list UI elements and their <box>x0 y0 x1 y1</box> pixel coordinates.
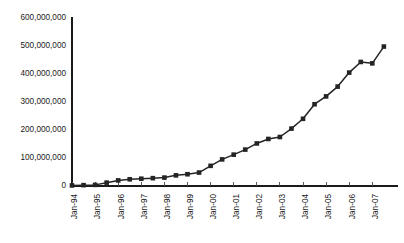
data-point-marker <box>208 164 213 169</box>
data-point-marker <box>174 173 179 178</box>
x-axis-tick-label: Jan-01 <box>232 194 241 219</box>
data-point-marker <box>197 170 202 175</box>
y-axis-tick-label: 200,000,000 <box>20 125 66 134</box>
y-axis-tick-label: 100,000,000 <box>20 153 66 162</box>
data-point-marker <box>347 70 352 75</box>
data-point-marker <box>162 175 167 180</box>
data-point-marker <box>104 180 109 185</box>
y-axis-tick-label: 500,000,000 <box>20 41 66 50</box>
data-point-marker <box>324 94 329 99</box>
data-point-marker <box>358 60 363 65</box>
data-point-marker <box>220 157 225 162</box>
x-axis-tick-label: Jan-99 <box>186 194 195 219</box>
y-axis-tick-label: 600,000,000 <box>20 13 66 22</box>
data-point-marker <box>231 152 236 157</box>
x-axis-tick-label: Jan-04 <box>301 194 310 219</box>
x-axis-tick-label: Jan-03 <box>278 194 287 219</box>
x-axis-tick-label: Jan-06 <box>348 194 357 219</box>
data-point-marker <box>127 177 132 182</box>
data-point-marker <box>151 176 156 181</box>
x-axis-tick-label: Jan-07 <box>371 194 380 219</box>
x-axis-tick-label: Jan-95 <box>93 194 102 219</box>
x-axis-tick-label: Jan-96 <box>117 194 126 219</box>
x-axis-tick-label: Jan-02 <box>255 194 264 219</box>
data-point-marker <box>243 147 248 152</box>
line-chart: 0100,000,000200,000,000300,000,000400,00… <box>0 0 404 243</box>
x-axis-tick-label: Jan-98 <box>163 194 172 219</box>
data-point-marker <box>185 172 190 177</box>
data-point-marker <box>266 137 271 142</box>
data-point-marker <box>382 44 387 49</box>
x-axis-tick-label: Jan-94 <box>70 194 79 219</box>
data-point-marker <box>335 84 340 89</box>
data-point-marker <box>289 126 294 131</box>
chart-container: 0100,000,000200,000,000300,000,000400,00… <box>0 0 404 243</box>
x-axis-tick-label: Jan-97 <box>140 194 149 219</box>
y-axis-tick-labels: 0100,000,000200,000,000300,000,000400,00… <box>20 13 66 190</box>
y-axis-tick-label: 0 <box>61 181 66 190</box>
data-point-marker <box>70 183 75 188</box>
data-point-marker <box>93 183 98 188</box>
data-point-marker <box>312 102 317 107</box>
data-point-markers <box>70 44 386 187</box>
y-axis-tick-label: 300,000,000 <box>20 97 66 106</box>
y-axis-tick-label: 400,000,000 <box>20 69 66 78</box>
data-point-marker <box>278 135 283 140</box>
x-axis-tick-labels: Jan-94Jan-95Jan-96Jan-97Jan-98Jan-99Jan-… <box>70 182 379 219</box>
x-axis-tick-label: Jan-05 <box>324 194 333 219</box>
data-point-marker <box>81 183 86 188</box>
data-series-line <box>72 47 384 186</box>
data-point-marker <box>139 176 144 181</box>
data-point-marker <box>116 178 121 183</box>
x-axis-tick-label: Jan-00 <box>209 194 218 219</box>
data-point-marker <box>255 141 260 146</box>
data-point-marker <box>370 61 375 66</box>
data-point-marker <box>301 117 306 122</box>
